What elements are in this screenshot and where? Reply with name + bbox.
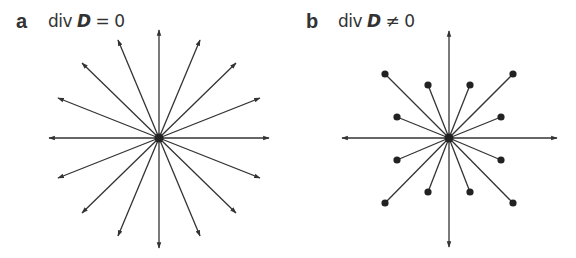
charge-dot [381, 70, 388, 77]
field-arrow [82, 63, 159, 138]
field-arrow [159, 63, 236, 138]
panel-b-center-charge [445, 134, 454, 143]
field-arrow [58, 138, 159, 178]
field-arrow [159, 138, 260, 178]
charge-dot [466, 81, 473, 88]
charge-dot [381, 199, 388, 206]
charge-dot [393, 113, 400, 120]
field-arrow [118, 40, 159, 138]
field-arrow [82, 138, 159, 213]
charge-dot [497, 156, 504, 163]
field-arrow [159, 98, 260, 138]
charge-dot [509, 199, 516, 206]
charge-dot [497, 113, 504, 120]
field-diagram [0, 0, 576, 258]
charge-dot [509, 70, 516, 77]
charge-dot [424, 188, 431, 195]
field-arrow [159, 138, 236, 213]
field-arrow [159, 40, 200, 138]
charge-dot [466, 188, 473, 195]
panel-a-center-charge [155, 134, 164, 143]
field-arrow [118, 138, 159, 236]
charge-dot [424, 81, 431, 88]
field-arrow [159, 138, 200, 236]
field-arrow [58, 98, 159, 138]
charge-dot [393, 156, 400, 163]
